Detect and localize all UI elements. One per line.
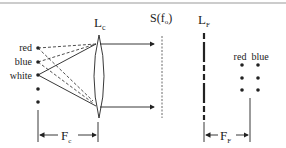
- output-label-red: red: [234, 51, 247, 62]
- collimator-focal-label: Fc: [61, 128, 71, 145]
- fourier-lens-label: LF: [198, 12, 210, 29]
- collimator-lens-label: Lc: [94, 15, 106, 32]
- source-label-white: white: [10, 70, 33, 81]
- output-points: [240, 63, 260, 92]
- optical-diagram: red blue white Lc S(fo) LF red blue: [0, 0, 286, 148]
- rays-dashed: [38, 44, 96, 103]
- source-label-blue: blue: [15, 56, 33, 67]
- fourier-focal-label: FF: [220, 128, 231, 145]
- focal-plane-label: S(fo): [150, 11, 172, 26]
- source-label-red: red: [19, 42, 32, 53]
- output-label-blue: blue: [251, 51, 269, 62]
